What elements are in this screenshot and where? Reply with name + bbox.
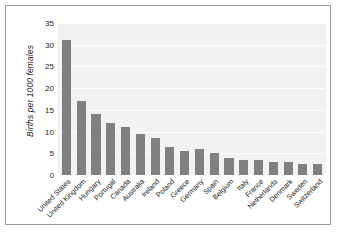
bar-slot (207, 23, 222, 175)
bar-slot (281, 23, 296, 175)
bar[interactable] (77, 101, 86, 175)
bar[interactable] (91, 114, 100, 175)
bar-slot (192, 23, 207, 175)
bar[interactable] (121, 127, 130, 175)
y-axis-tick-label: 25 (34, 62, 54, 71)
y-axis-tick-label: 10 (34, 127, 54, 136)
y-axis-tick-label: 35 (34, 19, 54, 28)
figure: Births per 1000 females 05101520253035 U… (0, 0, 338, 237)
bar-slot (74, 23, 89, 175)
bar[interactable] (254, 160, 263, 175)
y-axis-tick-labels: 05101520253035 (34, 18, 54, 178)
figure-frame: Births per 1000 females 05101520253035 U… (5, 5, 331, 225)
bar[interactable] (136, 134, 145, 175)
bar-slot (266, 23, 281, 175)
plot-area (58, 23, 326, 175)
bar[interactable] (313, 164, 322, 175)
bar[interactable] (165, 147, 174, 175)
bar[interactable] (298, 164, 307, 175)
bar-slot (310, 23, 325, 175)
bar[interactable] (106, 123, 115, 175)
bar-slot (251, 23, 266, 175)
bar-slot (177, 23, 192, 175)
bar-slot (103, 23, 118, 175)
bar[interactable] (269, 162, 278, 175)
bar-slot (59, 23, 74, 175)
y-axis-tick-label: 0 (34, 171, 54, 180)
bar[interactable] (224, 158, 233, 175)
bar-slot (148, 23, 163, 175)
bar[interactable] (62, 40, 71, 175)
x-label-slot: Switzerland (310, 176, 325, 236)
bar-slot (89, 23, 104, 175)
bar[interactable] (239, 160, 248, 175)
bar-slot (118, 23, 133, 175)
y-axis-tick-label: 20 (34, 84, 54, 93)
bar[interactable] (151, 138, 160, 175)
bar-slot (222, 23, 237, 175)
bar-slot (162, 23, 177, 175)
bar[interactable] (180, 151, 189, 175)
bar[interactable] (210, 153, 219, 175)
x-axis-tick-labels: United StatesUnited KingdomHungaryPortug… (58, 176, 326, 236)
bar-slot (236, 23, 251, 175)
y-axis-tick-label: 5 (34, 149, 54, 158)
bar[interactable] (195, 149, 204, 175)
bar[interactable] (284, 162, 293, 175)
x-label-slot: Portugal (103, 176, 118, 236)
y-axis-tick-label: 30 (34, 40, 54, 49)
bar-slot (133, 23, 148, 175)
bar-series (58, 23, 326, 175)
bar-slot (296, 23, 311, 175)
y-axis-tick-label: 15 (34, 105, 54, 114)
